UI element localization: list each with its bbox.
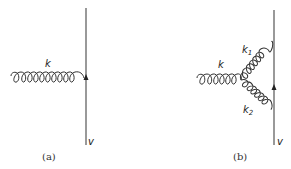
gluon-label-k-b: k [218, 59, 225, 70]
feynman-diagrams: k v (a) k k1 k2 v (b) [0, 0, 291, 169]
gluon-label-k1: k1 [242, 44, 252, 57]
caption-a: (a) [42, 151, 56, 162]
caption-b: (b) [233, 151, 247, 162]
diagram-b: k k1 k2 v (b) [197, 10, 284, 162]
fermion-arrow-a [84, 74, 89, 80]
diagram-a: k v (a) [11, 8, 95, 162]
gluon-label-k2: k2 [243, 104, 254, 117]
line-label-v-b: v [277, 136, 284, 147]
fermion-arrow-b [272, 84, 277, 90]
gluon-coil-b-incoming [197, 74, 241, 84]
gluon-label-k-a: k [45, 58, 52, 69]
gluon-coil-a [11, 72, 84, 82]
line-label-v-a: v [88, 136, 95, 147]
